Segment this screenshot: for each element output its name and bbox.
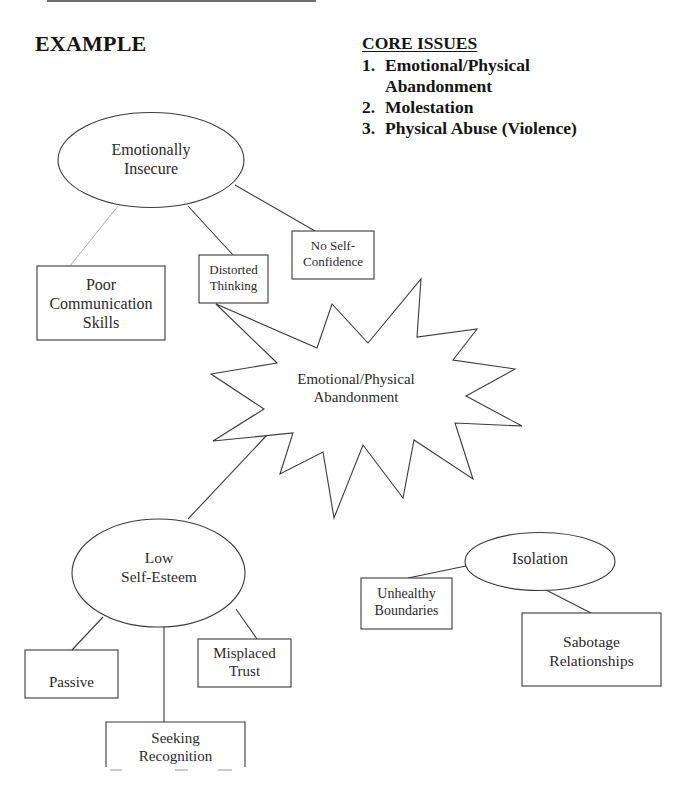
node-core-abandonment-label: Emotional/Physical Abandonment (286, 368, 426, 408)
edge-isolation-to-sabotage (546, 590, 591, 613)
node-unhealthy-boundaries-label: Unhealthy Boundaries (361, 582, 452, 622)
edge-self-esteem-to-passive (72, 617, 103, 650)
node-distorted-thinking-label: Distorted Thinking (199, 256, 268, 300)
edge-abandonment-to-low-self-esteem (188, 434, 268, 519)
node-seeking-recognition-label: Seeking Recognition (106, 727, 245, 767)
node-no-self-confidence-label: No Self- Confidence (292, 232, 374, 276)
node-emotionally-insecure-label: Emotionally Insecure (88, 138, 214, 180)
edge-insecure-to-poor-communication (70, 206, 118, 266)
edge-insecure-to-no-self-confidence (235, 185, 315, 231)
node-passive-label: Passive (25, 670, 118, 694)
edge-insecure-to-distorted-thinking (188, 206, 233, 255)
node-sabotage-relationships-label: Sabotage Relationships (522, 630, 661, 672)
edge-self-esteem-to-misplaced-trust (236, 609, 257, 639)
node-low-self-esteem-label: Low Self-Esteem (100, 546, 218, 588)
edge-isolation-to-unhealthy-boundaries (408, 566, 466, 578)
node-isolation-label: Isolation (470, 548, 610, 570)
node-misplaced-trust-label: Misplaced Trust (198, 641, 291, 683)
node-poor-communication-label: Poor Communication Skills (37, 270, 165, 336)
